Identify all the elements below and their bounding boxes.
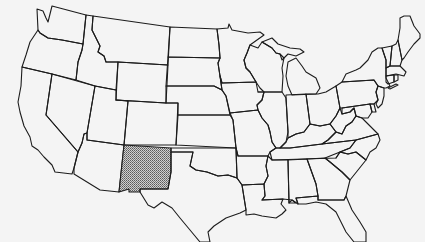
state-washington[interactable] (37, 6, 86, 44)
state-utah[interactable] (87, 86, 128, 145)
state-new-york[interactable] (342, 48, 390, 88)
state-mississippi[interactable] (262, 156, 296, 203)
state-virginia[interactable] (322, 116, 378, 144)
state-oregon[interactable] (22, 30, 83, 80)
state-south-dakota[interactable] (166, 57, 222, 90)
state-michigan-lower[interactable] (286, 58, 320, 95)
state-maine[interactable] (398, 16, 420, 60)
state-florida[interactable] (296, 196, 366, 242)
us-outline-map (0, 0, 425, 242)
state-delaware[interactable] (370, 104, 376, 112)
state-north-carolina[interactable] (336, 134, 380, 160)
state-illinois[interactable] (257, 92, 288, 148)
state-rhode-island[interactable] (394, 75, 398, 82)
state-south-carolina[interactable] (325, 152, 366, 180)
state-wyoming[interactable] (116, 62, 168, 103)
state-new-jersey[interactable] (376, 86, 384, 108)
state-west-virginia[interactable] (330, 108, 356, 134)
state-nebraska[interactable] (166, 86, 230, 115)
state-georgia[interactable] (307, 158, 350, 200)
state-north-dakota[interactable] (168, 27, 220, 58)
state-kansas[interactable] (176, 115, 236, 148)
state-ohio[interactable] (306, 86, 340, 126)
state-montana[interactable] (92, 16, 170, 65)
state-new-mexico[interactable] (119, 145, 171, 192)
state-idaho[interactable] (76, 15, 118, 90)
state-arizona[interactable] (74, 133, 124, 192)
state-pennsylvania[interactable] (336, 80, 378, 108)
state-minnesota[interactable] (217, 24, 264, 83)
state-colorado[interactable] (116, 100, 178, 145)
state-california[interactable] (18, 67, 78, 174)
state-wisconsin[interactable] (244, 42, 284, 92)
state-missouri[interactable] (230, 110, 276, 156)
state-arkansas[interactable] (236, 148, 268, 185)
state-tennessee[interactable] (270, 140, 356, 160)
